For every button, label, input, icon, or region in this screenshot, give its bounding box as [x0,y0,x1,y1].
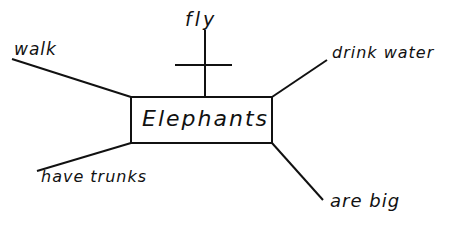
branch-label-drink-water: drink water [332,45,434,61]
branch-label-are-big: are big [330,192,400,210]
center-label: Elephants [142,108,269,130]
branch-line-walk [12,59,131,97]
branch-label-fly: fly [185,10,217,29]
branch-label-have-trunks: have trunks [41,169,147,185]
branch-line-are-big [272,143,323,200]
branch-label-walk: walk [14,41,57,58]
branch-line-drink-water [272,60,327,97]
elephants-diagram: Elephants walk fly drink water have trun… [0,0,450,227]
